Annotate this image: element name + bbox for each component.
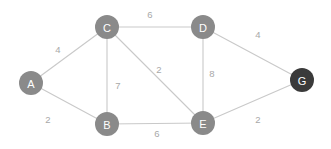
- edge-weight-label-d-g: 4: [255, 29, 260, 40]
- graph-diagram: 426728462 ABCDEG: [0, 0, 331, 149]
- node-circle-e[interactable]: [191, 111, 215, 135]
- edge-weight-label-a-b: 2: [45, 114, 50, 125]
- edge-weight-label-c-e: 2: [156, 64, 161, 75]
- node-circle-b[interactable]: [95, 112, 119, 136]
- graph-edge-b-e: [107, 123, 203, 124]
- graph-node-a[interactable]: A: [19, 71, 43, 95]
- node-circle-d[interactable]: [191, 15, 215, 39]
- graph-node-e[interactable]: E: [191, 111, 215, 135]
- graph-edge-c-e: [107, 27, 203, 123]
- edge-weight-label-d-e: 8: [209, 68, 214, 79]
- graph-edge-e-g: [203, 80, 302, 123]
- node-circle-g[interactable]: [290, 68, 314, 92]
- edge-weight-label-c-d: 6: [147, 9, 152, 20]
- graph-edge-a-c: [31, 27, 107, 83]
- nodes-layer: ABCDEG: [19, 15, 314, 136]
- graph-node-g[interactable]: G: [290, 68, 314, 92]
- edge-weight-label-e-g: 2: [255, 114, 260, 125]
- graph-node-b[interactable]: B: [95, 112, 119, 136]
- edge-weight-label-a-c: 4: [55, 44, 60, 55]
- edge-weight-label-c-b: 7: [115, 80, 120, 91]
- graph-node-c[interactable]: C: [95, 15, 119, 39]
- graph-node-d[interactable]: D: [191, 15, 215, 39]
- node-circle-c[interactable]: [95, 15, 119, 39]
- node-circle-a[interactable]: [19, 71, 43, 95]
- edge-weight-label-b-e: 6: [154, 128, 159, 139]
- graph-edge-a-b: [31, 83, 107, 124]
- graph-svg-canvas: 426728462 ABCDEG: [0, 0, 331, 149]
- edges-layer: [31, 27, 302, 124]
- graph-edge-d-g: [203, 27, 302, 80]
